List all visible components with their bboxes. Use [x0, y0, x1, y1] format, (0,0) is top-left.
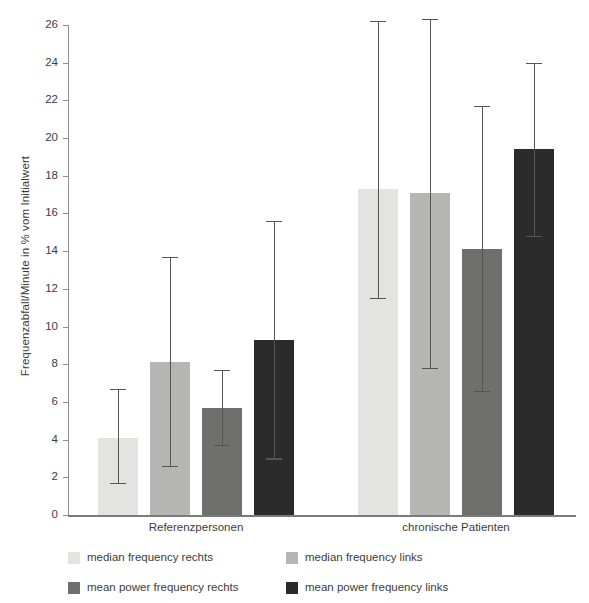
- y-axis-tick-label: 4: [28, 433, 58, 445]
- legend-swatch: [286, 552, 298, 564]
- error-bar-line: [482, 106, 483, 391]
- bar-chart-figure: Frequenzabfall/Minute in % vom Initialwe…: [0, 0, 589, 603]
- y-axis-tick: [63, 440, 69, 441]
- legend-item: mean power frequency rechts: [68, 582, 239, 594]
- x-axis-group-label: chronische Patienten: [402, 521, 509, 533]
- y-axis-tick: [63, 327, 69, 328]
- error-bar-cap-lower: [266, 458, 282, 459]
- y-axis-tick-label: 22: [28, 93, 58, 105]
- error-bar-line: [118, 389, 119, 483]
- error-bar-line: [378, 21, 379, 298]
- legend-label: mean power frequency links: [305, 582, 448, 594]
- y-axis-tick-label: 12: [28, 282, 58, 294]
- legend-swatch: [68, 552, 80, 564]
- error-bar-cap-upper: [110, 389, 126, 390]
- x-axis-line: [68, 515, 576, 517]
- y-axis-tick-label: 18: [28, 169, 58, 181]
- legend-item: median frequency links: [286, 552, 423, 564]
- error-bar-cap-lower: [422, 368, 438, 369]
- y-axis-tick: [63, 402, 69, 403]
- y-axis-tick-label: 14: [28, 244, 58, 256]
- error-bar-cap-upper: [526, 63, 542, 64]
- y-axis-tick: [63, 176, 69, 177]
- y-axis-tick: [63, 100, 69, 101]
- error-bar-line: [430, 19, 431, 368]
- legend-label: mean power frequency rechts: [87, 582, 239, 594]
- y-axis-tick-label: 16: [28, 206, 58, 218]
- error-bar-cap-lower: [162, 466, 178, 467]
- error-bar-cap-upper: [266, 221, 282, 222]
- error-bar-cap-lower: [214, 445, 230, 446]
- y-axis-tick: [63, 251, 69, 252]
- y-axis-tick-label: 6: [28, 395, 58, 407]
- plot-area: 02468101214161820222426: [68, 25, 576, 515]
- error-bar-cap-upper: [162, 257, 178, 258]
- y-axis-tick: [63, 138, 69, 139]
- y-axis-tick-label: 24: [28, 56, 58, 68]
- y-axis-tick: [63, 63, 69, 64]
- y-axis-tick-label: 2: [28, 470, 58, 482]
- legend-swatch: [68, 582, 80, 594]
- error-bar-cap-upper: [370, 21, 386, 22]
- error-bar-line: [170, 257, 171, 466]
- legend-item: median frequency rechts: [68, 552, 213, 564]
- legend-item: mean power frequency links: [286, 582, 448, 594]
- error-bar-cap-upper: [214, 370, 230, 371]
- error-bar-line: [222, 370, 223, 445]
- error-bar-cap-lower: [526, 236, 542, 237]
- error-bar-cap-lower: [370, 298, 386, 299]
- error-bar-line: [534, 63, 535, 236]
- y-axis-tick: [63, 515, 69, 516]
- error-bar-cap-lower: [474, 391, 490, 392]
- y-axis-tick: [63, 25, 69, 26]
- y-axis-tick: [63, 289, 69, 290]
- error-bar-cap-upper: [422, 19, 438, 20]
- y-axis-tick-label: 26: [28, 18, 58, 30]
- error-bar-cap-upper: [474, 106, 490, 107]
- error-bar-line: [274, 221, 275, 458]
- y-axis-tick-label: 0: [28, 508, 58, 520]
- legend-swatch: [286, 582, 298, 594]
- y-axis-tick: [63, 364, 69, 365]
- y-axis-tick-label: 8: [28, 357, 58, 369]
- legend-label: median frequency rechts: [87, 552, 213, 564]
- y-axis-tick: [63, 213, 69, 214]
- x-axis-group-label: Referenzpersonen: [149, 521, 244, 533]
- error-bar-cap-lower: [110, 483, 126, 484]
- y-axis-tick: [63, 477, 69, 478]
- y-axis-tick-label: 10: [28, 320, 58, 332]
- y-axis-line: [68, 25, 69, 516]
- legend-label: median frequency links: [305, 552, 423, 564]
- y-axis-tick-label: 20: [28, 131, 58, 143]
